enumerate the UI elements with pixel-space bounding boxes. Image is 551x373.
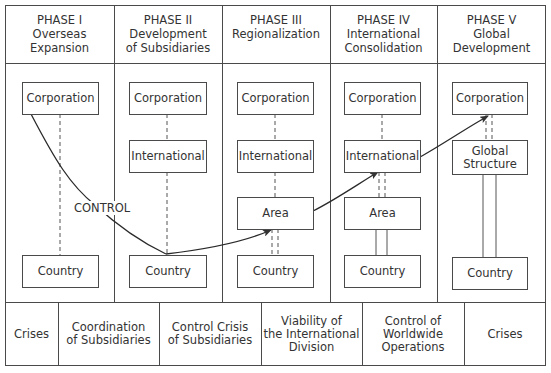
crisis-cell-1: Crises: [5, 302, 58, 366]
node-label: Corporation: [349, 92, 417, 105]
node-label: Corporation: [456, 92, 524, 105]
phase-5-global-structure-node: Global Structure: [452, 140, 528, 175]
phase-4-area-node: Area: [344, 197, 421, 230]
crisis-text: of Subsidiaries: [168, 334, 252, 347]
node-label: Global: [472, 145, 509, 158]
phase-1-corporation-node: Corporation: [22, 82, 99, 115]
phase-4-international-node: International: [344, 140, 421, 173]
node-label: Country: [360, 265, 406, 278]
control-label: CONTROL: [73, 201, 131, 215]
crisis-text: Crises: [487, 328, 522, 341]
phase-3-corporation-node: Corporation: [237, 82, 314, 115]
crisis-cell-3: Control Crisis of Subsidiaries: [159, 302, 261, 366]
crisis-text: Viability of: [281, 315, 342, 328]
crisis-text: of Subsidiaries: [66, 334, 150, 347]
crisis-cell-2: Coordination of Subsidiaries: [58, 302, 159, 366]
phase-4-country-node: Country: [344, 255, 421, 288]
node-label: Corporation: [242, 92, 310, 105]
crisis-cell-6: Crises: [464, 302, 546, 366]
node-label: Area: [369, 207, 395, 220]
node-label: Corporation: [27, 92, 95, 105]
crisis-text: Crises: [14, 328, 49, 341]
control-arrow-1: [166, 230, 271, 254]
control-curve: [31, 114, 166, 254]
phase-5-country-node: Country: [452, 257, 528, 290]
node-label: Corporation: [134, 92, 202, 105]
node-label: International: [239, 150, 312, 163]
crisis-text: Worldwide: [383, 328, 443, 341]
crisis-cell-5: Control of Worldwide Operations: [362, 302, 464, 366]
phase-2-international-node: International: [129, 140, 207, 173]
phase-4-corporation-node: Corporation: [344, 82, 421, 115]
crisis-text: Operations: [381, 341, 444, 354]
node-label: International: [346, 150, 419, 163]
phase-3-area-node: Area: [237, 197, 314, 230]
phase-3-international-node: International: [237, 140, 314, 173]
phase-2-country-node: Country: [129, 255, 207, 288]
phase-5-corporation-node: Corporation: [452, 82, 528, 115]
phase-1-country-node: Country: [22, 255, 99, 288]
crisis-text: the International: [264, 328, 360, 341]
crisis-text: Control of: [385, 315, 441, 328]
crisis-text: Division: [289, 341, 335, 354]
node-label: Area: [262, 207, 288, 220]
node-label: International: [131, 150, 204, 163]
crisis-cell-4: Viability of the International Division: [261, 302, 362, 366]
node-label: Structure: [463, 158, 517, 171]
node-label: Country: [253, 265, 299, 278]
phase-2-corporation-node: Corporation: [129, 82, 207, 115]
phase-3-country-node: Country: [237, 255, 314, 288]
node-label: Country: [467, 267, 513, 280]
node-label: Country: [38, 265, 84, 278]
node-label: Country: [145, 265, 191, 278]
